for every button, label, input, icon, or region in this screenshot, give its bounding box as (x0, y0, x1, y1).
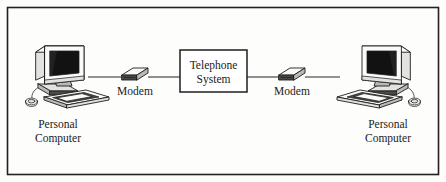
right-computer-label-line2: Computer (365, 132, 411, 145)
network-diagram-figure: Personal Computer Modem Telephone System… (0, 0, 446, 182)
right-modem-icon (279, 68, 305, 80)
diagram-canvas: Personal Computer Modem Telephone System… (0, 0, 446, 182)
left-mouse-icon (26, 98, 38, 106)
right-computer-label-line1: Personal (368, 118, 408, 130)
left-modem-label: Modem (117, 85, 153, 97)
telephone-system-label-line2: System (197, 73, 231, 86)
left-monitor (36, 46, 84, 84)
telephone-system-label-line1: Telephone (190, 59, 238, 72)
right-monitor (362, 46, 410, 84)
right-mouse-icon (409, 98, 421, 106)
left-computer-label-line2: Computer (35, 132, 81, 145)
telephone-system-box (180, 50, 247, 92)
left-computer-label-line1: Personal (38, 118, 78, 130)
left-modem-icon (122, 68, 148, 80)
right-computer-icon (337, 46, 421, 108)
right-modem-label: Modem (274, 85, 310, 97)
